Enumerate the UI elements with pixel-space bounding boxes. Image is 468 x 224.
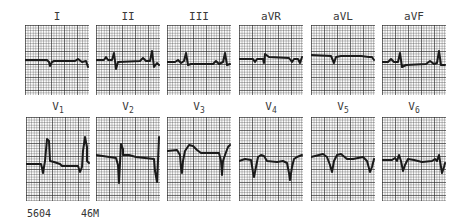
lead-label-V3: V3 — [167, 100, 231, 115]
ecg-panel-V1 — [26, 117, 90, 201]
ecg-panel-V5 — [311, 117, 375, 201]
ecg-panel-V3 — [167, 117, 231, 201]
ecg-trace-V4 — [239, 117, 303, 201]
ecg-trace-V1 — [26, 117, 90, 201]
lead-label-aVF: aVF — [382, 10, 446, 23]
ecg-trace-V3 — [167, 117, 231, 201]
lead-label-aVR: aVR — [239, 10, 303, 23]
ecg-panel-aVF — [382, 25, 446, 95]
lead-label-V4: V4 — [239, 100, 303, 115]
lead-label-II: II — [96, 10, 160, 23]
record-id: 5604 — [27, 208, 51, 219]
ecg-trace-II — [96, 25, 160, 95]
lead-label-V6: V6 — [382, 100, 446, 115]
lead-label-III: III — [167, 10, 231, 23]
ecg-trace-V5 — [311, 117, 375, 201]
ecg-trace-V2 — [96, 117, 160, 201]
ecg-trace-aVF — [382, 25, 446, 95]
ecg-panel-aVL — [311, 25, 375, 95]
lead-label-I: I — [25, 10, 89, 23]
lead-label-V2: V2 — [96, 100, 160, 115]
ecg-panel-aVR — [239, 25, 303, 95]
ecg-trace-III — [167, 25, 231, 95]
lead-label-aVL: aVL — [311, 10, 375, 23]
ecg-trace-I — [25, 25, 89, 95]
ecg-panel-III — [167, 25, 231, 95]
lead-label-V1: V1 — [26, 100, 90, 115]
ecg-panel-V4 — [239, 117, 303, 201]
ecg-panel-I — [25, 25, 89, 95]
ecg-panel-II — [96, 25, 160, 95]
ecg-trace-aVR — [239, 25, 303, 95]
lead-label-V5: V5 — [311, 100, 375, 115]
ecg-panel-V2 — [96, 117, 160, 201]
ecg-trace-aVL — [311, 25, 375, 95]
ecg-trace-V6 — [382, 117, 446, 201]
patient-info: 46M — [81, 208, 99, 219]
ecg-panel-V6 — [382, 117, 446, 201]
